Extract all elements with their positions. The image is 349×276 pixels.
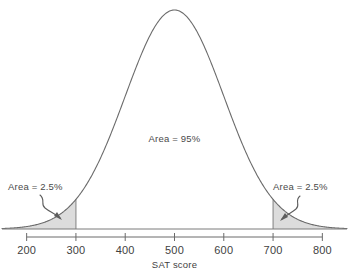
x-axis-tick-label: 300 — [66, 244, 85, 256]
x-axis-title: SAT score — [152, 259, 197, 270]
x-axis-tick-label: 800 — [313, 244, 332, 256]
bell-curve — [2, 10, 347, 229]
normal-distribution-figure: 200300400500600700800 SAT score Area = 9… — [0, 0, 349, 276]
x-axis-tick-labels: 200300400500600700800 — [17, 244, 332, 256]
x-axis-tick-label: 400 — [116, 244, 135, 256]
center-area-label: Area = 95% — [149, 133, 201, 144]
x-axis-tick-label: 700 — [264, 244, 283, 256]
right-tail-area-label: Area = 2.5% — [273, 181, 328, 192]
distribution-chart: 200300400500600700800 SAT score Area = 9… — [0, 0, 349, 276]
x-axis-tick-label: 600 — [214, 244, 233, 256]
left-tail-area-label: Area = 2.5% — [8, 181, 63, 192]
x-axis-tick-label: 200 — [17, 244, 36, 256]
x-axis-tick-label: 500 — [165, 244, 184, 256]
